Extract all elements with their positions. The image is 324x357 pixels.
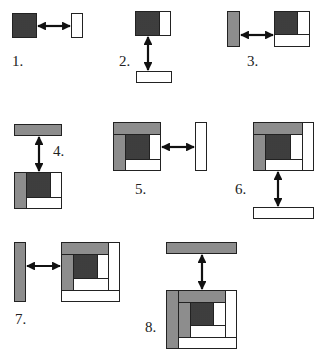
double-arrow-icons [0,0,324,357]
step-label-6: 6. [235,182,246,197]
step-label-2: 2. [119,54,130,69]
step-label-5: 5. [135,182,146,197]
step-label-4: 4. [53,144,64,159]
step-label-8: 8. [145,320,156,335]
step-label-1: 1. [12,54,23,69]
step-label-3: 3. [247,54,258,69]
quilt-assembly-diagram: 1. 2. 3. 4. 5. 6. 7. 8. [0,0,324,357]
step-label-7: 7. [15,312,26,327]
